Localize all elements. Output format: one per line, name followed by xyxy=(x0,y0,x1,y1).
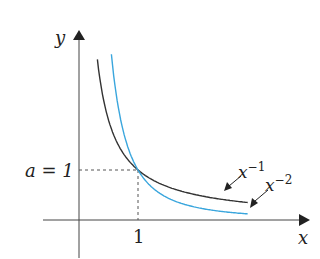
x-inv-2-base: x xyxy=(265,175,275,195)
label-x-inv-1: x−1 xyxy=(224,160,265,191)
svg-text:x−2: x−2 xyxy=(265,173,292,195)
x-inv-1-base: x xyxy=(238,162,248,182)
x-axis-label: x xyxy=(298,227,308,248)
y-axis-label: y xyxy=(54,27,66,48)
y-axis-arrow-icon xyxy=(73,30,85,40)
graph: y x a = 1 1 x−1 x−2 xyxy=(0,0,320,259)
x-tick-1-label: 1 xyxy=(133,226,144,247)
x-inv-2-pointer xyxy=(255,190,268,201)
svg-text:x−1: x−1 xyxy=(238,160,265,182)
label-x-inv-2: x−2 xyxy=(250,173,292,208)
x-inv-1-arrow-icon xyxy=(224,182,232,191)
x-inv-1-exp: −1 xyxy=(248,160,266,174)
curve-x-inv-1 xyxy=(97,59,247,202)
x-inv-2-exp: −2 xyxy=(275,173,293,187)
a-equals-1-label: a = 1 xyxy=(25,160,74,181)
x-axis-arrow-icon xyxy=(299,214,310,226)
